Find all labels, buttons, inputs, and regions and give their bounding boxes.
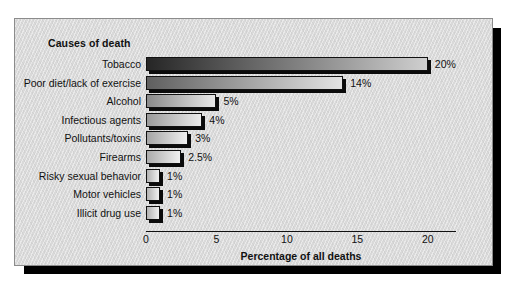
bar-wrapper xyxy=(146,113,202,127)
chart-panel: Causes of death Percentage of all deaths… xyxy=(14,18,493,266)
x-tick-label: 5 xyxy=(214,233,220,245)
x-axis-title: Percentage of all deaths xyxy=(146,250,456,262)
x-tick-label: 20 xyxy=(422,233,434,245)
category-label: Pollutants/toxins xyxy=(15,130,141,147)
x-tick-label: 10 xyxy=(281,233,293,245)
category-label: Firearms xyxy=(15,149,141,166)
x-tick-label: 0 xyxy=(143,233,149,245)
bar-row: Motor vehicles1% xyxy=(15,186,494,203)
bar-wrapper xyxy=(146,187,160,201)
bar[interactable] xyxy=(146,57,428,71)
bar-row: Pollutants/toxins3% xyxy=(15,130,494,147)
category-label: Tobacco xyxy=(15,56,141,73)
category-label: Infectious agents xyxy=(15,112,141,129)
bar-value-label: 5% xyxy=(223,93,238,110)
bar[interactable] xyxy=(146,169,160,183)
bar[interactable] xyxy=(146,94,216,108)
bar-row: Risky sexual behavior1% xyxy=(15,168,494,185)
chart-figure: Causes of death Percentage of all deaths… xyxy=(0,0,513,286)
bar-value-label: 20% xyxy=(435,56,456,73)
bar[interactable] xyxy=(146,131,188,145)
bar-row: Alcohol5% xyxy=(15,93,494,110)
bar[interactable] xyxy=(146,150,181,164)
category-label: Alcohol xyxy=(15,93,141,110)
x-axis-line xyxy=(146,231,456,232)
bar[interactable] xyxy=(146,187,160,201)
bar-row: Tobacco20% xyxy=(15,56,494,73)
category-label: Risky sexual behavior xyxy=(15,168,141,185)
bar[interactable] xyxy=(146,206,160,220)
bar-wrapper xyxy=(146,57,428,71)
bar-value-label: 1% xyxy=(167,186,182,203)
bar-row: Poor diet/lack of exercise14% xyxy=(15,75,494,92)
bar-row: Infectious agents4% xyxy=(15,112,494,129)
x-tick-label: 15 xyxy=(352,233,364,245)
bar-wrapper xyxy=(146,206,160,220)
bar-wrapper xyxy=(146,169,160,183)
plot-area: Percentage of all deaths Tobacco20%Poor … xyxy=(15,19,494,267)
bar-value-label: 3% xyxy=(195,130,210,147)
bar-value-label: 4% xyxy=(209,112,224,129)
chart-title: Causes of death xyxy=(48,37,131,49)
category-label: Illicit drug use xyxy=(15,205,141,222)
bar[interactable] xyxy=(146,113,202,127)
bar-value-label: 2.5% xyxy=(188,149,212,166)
bar-row: Illicit drug use1% xyxy=(15,205,494,222)
bar[interactable] xyxy=(146,76,343,90)
bar-value-label: 14% xyxy=(350,75,371,92)
bar-wrapper xyxy=(146,94,216,108)
bar-wrapper xyxy=(146,150,181,164)
bar-value-label: 1% xyxy=(167,168,182,185)
bar-value-label: 1% xyxy=(167,205,182,222)
category-label: Poor diet/lack of exercise xyxy=(15,75,141,92)
bar-row: Firearms2.5% xyxy=(15,149,494,166)
bar-wrapper xyxy=(146,131,188,145)
bar-wrapper xyxy=(146,76,343,90)
category-label: Motor vehicles xyxy=(15,186,141,203)
